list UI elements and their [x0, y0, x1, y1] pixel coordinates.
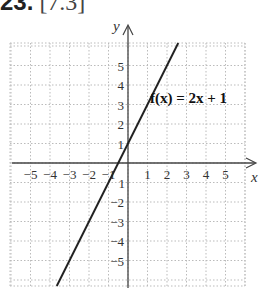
x-tick-label: 4 — [203, 167, 210, 182]
y-tick-label: 3 — [118, 98, 125, 113]
y-axis-label: y — [111, 18, 120, 34]
x-tick-label: 3 — [183, 167, 190, 182]
function-label: f(x) = 2x + 1 — [150, 90, 227, 107]
x-tick-label: 2 — [164, 167, 171, 182]
x-tick-label: −3 — [63, 167, 77, 182]
y-tick-label: −4 — [110, 234, 124, 249]
y-tick-label: 5 — [118, 59, 125, 74]
x-tick-label: −2 — [82, 167, 96, 182]
x-tick-label: 1 — [144, 167, 151, 182]
axes: x y — [12, 18, 258, 288]
y-tick-label: 1 — [118, 137, 125, 152]
y-tick-label: −5 — [110, 254, 124, 269]
y-tick-label: 4 — [118, 78, 125, 93]
y-tick-label: 2 — [118, 117, 125, 132]
x-axis-label: x — [250, 169, 258, 185]
function-graph: x y −5−4−3−2−112345−5−4−3−2112345 f(x) =… — [0, 0, 267, 291]
x-tick-label: −4 — [43, 167, 57, 182]
x-tick-label: −5 — [24, 167, 38, 182]
y-tick-label: −3 — [110, 215, 124, 230]
x-tick-label: 5 — [222, 167, 229, 182]
y-tick-label: 1 — [119, 176, 126, 191]
y-tick-label: −2 — [110, 195, 124, 210]
